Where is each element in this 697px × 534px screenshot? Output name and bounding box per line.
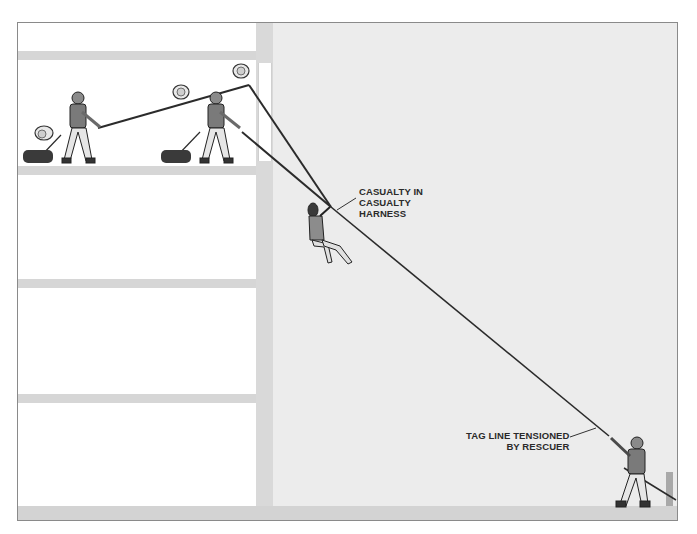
tag-line-label-line-1: TAG LINE TENSIONED	[466, 430, 570, 441]
casualty-label: CASUALTY IN CASUALTY HARNESS	[359, 186, 423, 219]
rescuer-figure-1	[62, 92, 100, 163]
tag-line-rope	[331, 207, 609, 436]
rescuer-figure-2	[200, 92, 240, 163]
casualty-figure	[308, 203, 352, 264]
casualty-label-line-3: HARNESS	[359, 208, 423, 219]
rescue-scene	[0, 0, 697, 534]
pulley-icon	[173, 85, 189, 99]
pulley-icon	[233, 64, 249, 78]
anchor-roll-icon	[161, 150, 191, 163]
casualty-leader-line	[337, 198, 356, 210]
tag-line-label-line-2: BY RESCUER	[466, 441, 570, 452]
belay-rope	[242, 132, 331, 207]
anchor-roll-icon	[23, 150, 53, 163]
casualty-label-line-1: CASUALTY IN	[359, 186, 423, 197]
casualty-label-line-2: CASUALTY	[359, 197, 423, 208]
main-line-rope	[249, 85, 331, 207]
tag-line-label: TAG LINE TENSIONED BY RESCUER	[466, 430, 570, 452]
ropes	[40, 85, 676, 500]
rescuer-figure-ground	[611, 437, 650, 507]
pulley-icon	[35, 126, 53, 140]
tag-leader-line	[570, 428, 596, 437]
